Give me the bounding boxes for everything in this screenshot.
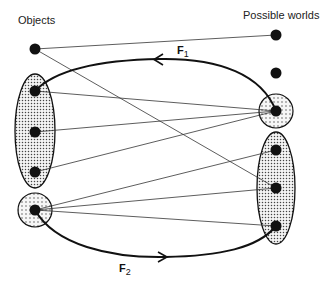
objects-label: Objects [18, 14, 55, 26]
f2-label: F2 [119, 262, 131, 277]
f1-label: F1 [177, 44, 189, 59]
diagram-canvas [0, 0, 328, 289]
possible-worlds-label: Possible worlds [243, 9, 319, 21]
world-node [271, 221, 282, 232]
f2-mapping-curve [35, 210, 276, 257]
f1-label-sub: 1 [184, 49, 189, 59]
world-node [271, 30, 282, 41]
f2-label-sub: 2 [126, 267, 131, 277]
f1-mapping-curve [35, 59, 276, 111]
object-node [30, 127, 41, 138]
object-node [30, 167, 41, 178]
object-node [30, 44, 41, 55]
f1-label-main: F [177, 44, 184, 56]
world-node [271, 68, 282, 79]
world-node [271, 183, 282, 194]
object-node [30, 205, 41, 216]
f2-label-main: F [119, 262, 126, 274]
object-node [30, 86, 41, 97]
object-nodes [30, 44, 41, 216]
world-node [271, 106, 282, 117]
world-node [271, 145, 282, 156]
relation-lines [35, 35, 276, 226]
